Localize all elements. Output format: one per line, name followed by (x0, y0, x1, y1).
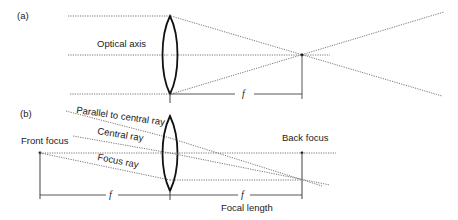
parallel-ray-label: Parallel to central ray (76, 104, 166, 127)
back-focus-label: Back focus (282, 132, 329, 143)
focus-ray-label: Focus ray (97, 151, 140, 170)
panel-a-label: (a) (17, 10, 29, 21)
panel-b: (b) Front focus Parallel to central ray … (20, 104, 336, 213)
focal-length-label: Focal length (221, 202, 273, 213)
refracted-ray-bottom (171, 12, 444, 94)
panel-a: (a) Optical axis f (17, 10, 444, 103)
focal-symbol-front: f (109, 189, 113, 200)
refracted-ray-top (171, 16, 442, 96)
front-focus-label: Front focus (21, 135, 69, 146)
parallel-ray-out (170, 138, 322, 186)
focal-symbol-back: f (241, 189, 245, 200)
thin-lens-diagram: (a) Optical axis f (b) Front focus P (0, 0, 458, 220)
panel-b-label: (b) (20, 108, 32, 119)
optical-axis-label: Optical axis (97, 38, 146, 49)
focal-symbol-a: f (242, 88, 246, 99)
central-ray-label: Central ray (97, 125, 145, 143)
